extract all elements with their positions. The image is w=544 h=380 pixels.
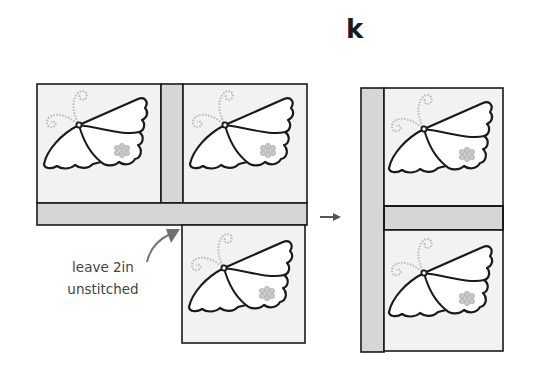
step-label: k <box>346 14 363 44</box>
annotation-line-2: unstitched <box>58 278 148 300</box>
before-layout <box>37 84 307 343</box>
annotation-text: leave 2in unstitched <box>58 256 148 300</box>
horizontal-sashing-strip <box>37 203 307 225</box>
vertical-sashing-strip <box>161 84 183 203</box>
horizontal-sashing-strip <box>384 206 503 230</box>
transform-arrow-icon <box>320 213 341 221</box>
annotation-curved-arrow-icon <box>147 234 170 262</box>
quilt-assembly-diagram <box>0 0 544 380</box>
annotation-line-1: leave 2in <box>58 256 148 278</box>
long-vertical-sashing-strip <box>361 88 384 352</box>
after-layout <box>361 88 503 352</box>
